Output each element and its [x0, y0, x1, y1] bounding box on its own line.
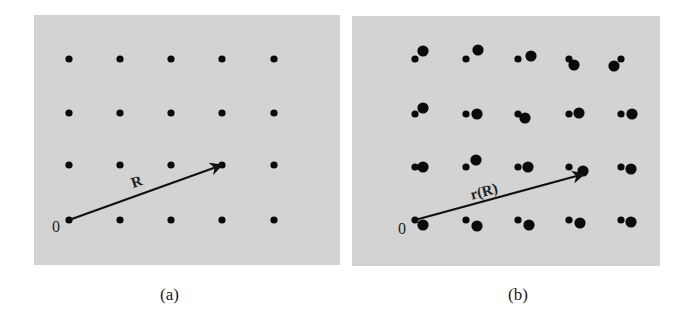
lattice-site-dot [167, 161, 174, 168]
displaced-ion-dot [417, 219, 428, 230]
equilibrium-site-dot [617, 110, 624, 117]
lattice-site-dot [270, 161, 277, 168]
equilibrium-site-dot [565, 110, 572, 117]
equilibrium-site-dot [514, 216, 521, 223]
lattice-site-dot [65, 55, 72, 62]
displaced-ion-dot [472, 44, 483, 55]
panel-a-caption: (a) [160, 285, 179, 305]
equilibrium-site-dot [617, 55, 624, 62]
equilibrium-site-dot [411, 110, 418, 117]
lattice-site-dot [270, 55, 277, 62]
lattice-site-dot [167, 216, 174, 223]
displaced-ion-dot [626, 108, 637, 119]
lattice-site-dot [65, 161, 72, 168]
lattice-site-dot [167, 109, 174, 116]
panel-b-caption: (b) [508, 285, 528, 305]
displaced-ion-dot [574, 217, 585, 228]
panel-a-origin-label: 0 [52, 218, 60, 235]
panel-b-origin-label: 0 [398, 220, 406, 237]
equilibrium-site-dot [514, 163, 521, 170]
equilibrium-site-dot [565, 163, 572, 170]
displaced-ion-dot [471, 220, 482, 231]
displaced-ion-dot [568, 59, 579, 70]
equilibrium-site-dot [514, 55, 521, 62]
lattice-figure: R 0 r(R) 0 [0, 0, 681, 321]
equilibrium-site-dot [617, 216, 624, 223]
lattice-site-dot [116, 55, 123, 62]
equilibrium-site-dot [411, 55, 418, 62]
lattice-site-dot [65, 109, 72, 116]
displaced-ion-dot [519, 112, 530, 123]
displaced-ion-dot [417, 45, 428, 56]
equilibrium-site-dot [462, 163, 469, 170]
displaced-ion-dot [523, 219, 534, 230]
displaced-ion-dot [471, 108, 482, 119]
panel-a-background [34, 15, 340, 265]
displaced-ion-dot [625, 163, 636, 174]
lattice-site-dot [218, 216, 225, 223]
lattice-site-dot [270, 216, 277, 223]
displaced-ion-dot [470, 154, 481, 165]
equilibrium-site-dot [565, 216, 572, 223]
equilibrium-site-dot [462, 216, 469, 223]
displaced-ion-dot [525, 50, 536, 61]
lattice-site-dot [270, 109, 277, 116]
lattice-site-dot [218, 55, 225, 62]
equilibrium-site-dot [462, 110, 469, 117]
lattice-site-dot [116, 216, 123, 223]
lattice-site-dot [116, 161, 123, 168]
displaced-ion-dot [417, 102, 428, 113]
displaced-ion-dot [417, 161, 428, 172]
displaced-ion-dot [522, 161, 533, 172]
lattice-site-dot [116, 109, 123, 116]
lattice-site-dot [218, 109, 225, 116]
lattice-site-dot [167, 55, 174, 62]
displaced-ion-dot [608, 60, 619, 71]
equilibrium-site-dot [617, 163, 624, 170]
displaced-ion-dot [573, 107, 584, 118]
displaced-ion-dot [625, 216, 636, 227]
equilibrium-site-dot [462, 55, 469, 62]
